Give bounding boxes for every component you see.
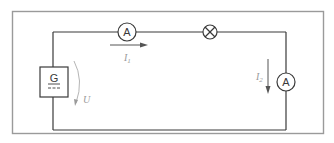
lamp bbox=[203, 25, 217, 39]
circuit-wires bbox=[53, 32, 286, 130]
ammeter-right: A bbox=[277, 73, 295, 91]
ammeter-right-label: A bbox=[282, 76, 290, 88]
ammeter-top: A bbox=[118, 23, 136, 41]
ammeter-top-label: A bbox=[123, 26, 131, 38]
generator-label: G bbox=[50, 72, 59, 84]
circuit-diagram: A A G I1 I2 U bbox=[0, 0, 334, 143]
current-i2-arrow: I2 bbox=[255, 59, 271, 94]
voltage-u-arrow: U bbox=[74, 61, 91, 106]
voltage-u-label: U bbox=[83, 94, 91, 105]
current-i1-label: I1 bbox=[123, 52, 131, 65]
current-i2-label: I2 bbox=[255, 71, 263, 84]
current-i1-arrow: I1 bbox=[110, 43, 148, 66]
generator: G bbox=[40, 67, 68, 97]
